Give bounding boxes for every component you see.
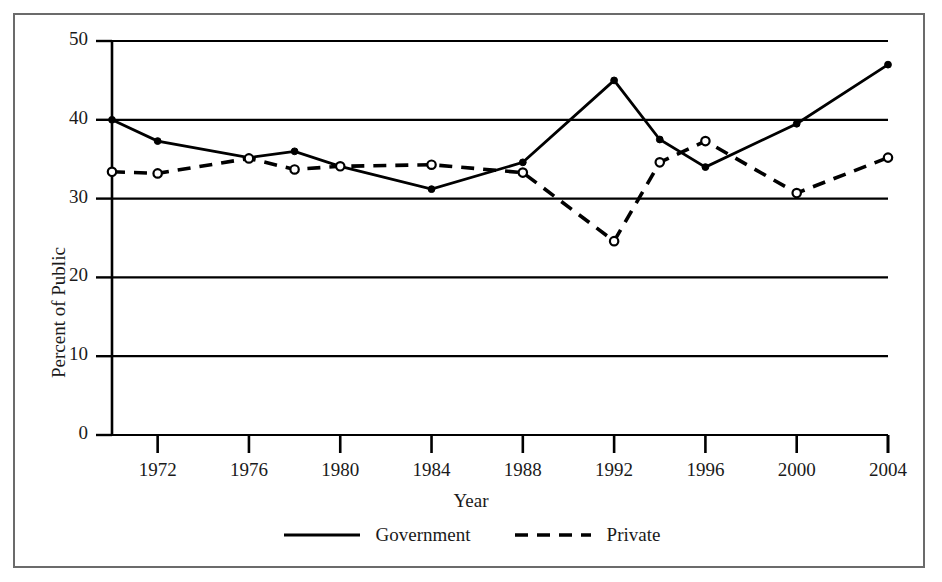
x-tick-marks-group xyxy=(158,435,888,453)
y-tick-label-40: 40 xyxy=(12,107,88,129)
data-point-private-1972 xyxy=(153,169,161,177)
data-point-private-2004 xyxy=(884,153,892,161)
series-lines-group xyxy=(112,65,888,242)
data-point-private-1994 xyxy=(656,158,664,166)
chart-legend: Government Private xyxy=(0,524,942,546)
data-point-government-1972 xyxy=(154,138,161,145)
data-point-private-1984 xyxy=(427,161,435,169)
series-line-private xyxy=(112,141,888,241)
y-tick-label-50: 50 xyxy=(12,28,88,50)
data-point-private-1992 xyxy=(610,237,618,245)
legend-solid-line-icon xyxy=(282,529,362,541)
data-point-private-1976 xyxy=(245,154,253,162)
data-point-government-1978 xyxy=(291,148,298,155)
data-point-private-1978 xyxy=(290,165,298,173)
data-point-private-1980 xyxy=(336,162,344,170)
data-point-government-1988 xyxy=(519,159,526,166)
data-point-private-1970 xyxy=(108,168,116,176)
gridlines-group xyxy=(112,41,888,435)
x-tick-label-1992: 1992 xyxy=(564,459,664,481)
chart-figure: Percent of Public Year 01020304050 19721… xyxy=(0,0,942,582)
y-tick-label-20: 20 xyxy=(12,264,88,286)
data-point-government-2004 xyxy=(885,61,892,68)
data-point-government-1994 xyxy=(656,136,663,143)
data-point-government-1984 xyxy=(428,186,435,193)
x-tick-label-1976: 1976 xyxy=(199,459,299,481)
data-point-government-1992 xyxy=(611,77,618,84)
data-point-government-1996 xyxy=(702,164,709,171)
x-axis-title: Year xyxy=(0,490,942,512)
legend-item-private: Private xyxy=(513,524,661,546)
x-tick-label-1980: 1980 xyxy=(290,459,390,481)
x-tick-label-2000: 2000 xyxy=(747,459,847,481)
data-point-government-1970 xyxy=(109,116,116,123)
x-tick-label-1972: 1972 xyxy=(108,459,208,481)
y-axis-title-wrap: Percent of Public xyxy=(22,120,52,380)
x-tick-label-1996: 1996 xyxy=(655,459,755,481)
y-tick-label-10: 10 xyxy=(12,343,88,365)
series-line-government xyxy=(112,65,888,190)
y-tick-label-0: 0 xyxy=(12,422,88,444)
legend-label-government: Government xyxy=(376,524,471,546)
x-tick-label-1984: 1984 xyxy=(382,459,482,481)
data-point-government-2000 xyxy=(793,120,800,127)
data-point-private-2000 xyxy=(793,189,801,197)
y-tick-marks-group xyxy=(96,41,112,435)
data-point-private-1988 xyxy=(519,168,527,176)
legend-dashed-line-icon xyxy=(513,529,593,541)
x-tick-label-2004: 2004 xyxy=(838,459,938,481)
legend-label-private: Private xyxy=(607,524,661,546)
x-tick-label-1988: 1988 xyxy=(473,459,573,481)
legend-item-government: Government xyxy=(282,524,471,546)
data-point-private-1996 xyxy=(701,137,709,145)
y-tick-label-30: 30 xyxy=(12,186,88,208)
